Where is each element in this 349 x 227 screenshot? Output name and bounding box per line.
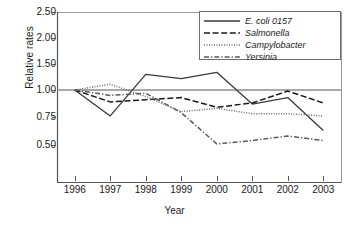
x-tick-label: 2003	[303, 184, 343, 195]
x-tick-label: 1997	[90, 184, 130, 195]
legend-line-swatch-icon	[204, 16, 240, 26]
legend-item[interactable]: Campylobacter	[204, 39, 336, 50]
x-axis-label: Year	[0, 205, 349, 216]
legend-line-swatch-icon	[204, 40, 240, 50]
legend-label: E. coli 0157	[245, 16, 292, 26]
legend-item[interactable]: Salmonella	[204, 27, 336, 38]
x-tick-label: 2002	[268, 184, 308, 195]
legend-line-swatch-icon	[204, 28, 240, 38]
x-tick-mark	[288, 176, 289, 181]
relative-rates-line-chart: Relative rates 2.502.001.501.000.750.50 …	[0, 0, 349, 227]
series-line-campylobacter	[75, 84, 324, 116]
x-tick-mark	[146, 176, 147, 181]
legend-label: Salmonella	[245, 28, 290, 38]
x-tick-label: 1999	[161, 184, 201, 195]
legend-item[interactable]: Yersinia	[204, 51, 336, 62]
x-tick-mark	[181, 176, 182, 181]
x-axis-tick-labels: 19961997199819992000200120022003	[0, 182, 349, 196]
legend-line-swatch-icon	[204, 52, 240, 62]
legend-label: Yersinia	[245, 52, 277, 62]
x-tick-mark	[323, 176, 324, 181]
series-line-salmonella	[75, 90, 324, 107]
legend-item[interactable]: E. coli 0157	[204, 15, 336, 26]
legend-label: Campylobacter	[245, 40, 306, 50]
x-tick-mark	[252, 176, 253, 181]
x-tick-label: 2001	[232, 184, 272, 195]
x-tick-mark	[110, 176, 111, 181]
x-tick-mark	[75, 176, 76, 181]
x-tick-label: 1996	[55, 184, 95, 195]
x-tick-mark	[217, 176, 218, 181]
x-tick-label: 1998	[126, 184, 166, 195]
x-tick-label: 2000	[197, 184, 237, 195]
chart-legend: E. coli 0157SalmonellaCampylobacterYersi…	[199, 11, 341, 60]
